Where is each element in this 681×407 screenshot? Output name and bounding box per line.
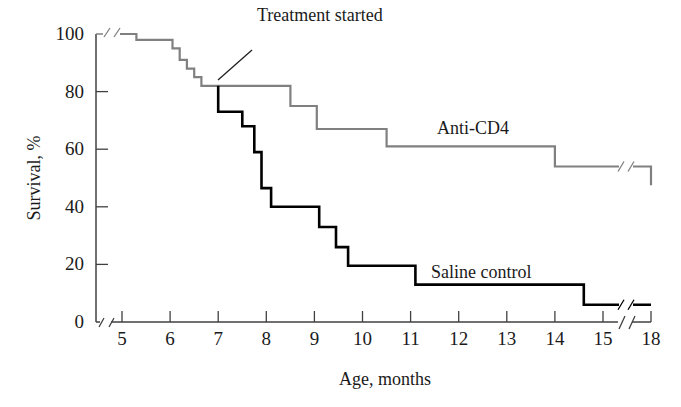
x-tick-label: 8: [262, 328, 272, 349]
x-tick-label: 18: [642, 328, 661, 349]
y-tick-label: 60: [65, 138, 84, 159]
series-label-anti-cd4: Anti-CD4: [437, 118, 509, 138]
y-tick-label: 40: [65, 196, 84, 217]
x-axis-title: Age, months: [339, 369, 431, 389]
y-tick-label: 100: [56, 23, 85, 44]
series-label-saline: Saline control: [431, 262, 531, 282]
axis-break-icon: [619, 316, 625, 329]
y-tick-label: 0: [75, 311, 85, 332]
annotation-treatment-started: Treatment started: [257, 5, 383, 25]
annotation-leader-line: [218, 50, 252, 80]
x-tick-label: 7: [213, 328, 223, 349]
x-tick-label: 15: [594, 328, 613, 349]
axis-break-icon: [114, 28, 120, 37]
axis-break-icon: [104, 28, 110, 37]
x-tick-label: 6: [165, 328, 175, 349]
x-tick-label: 5: [117, 328, 127, 349]
labels: 5678910111213141518020406080100: [56, 23, 661, 349]
y-tick-label: 20: [65, 253, 84, 274]
x-tick-label: 11: [401, 328, 419, 349]
y-tick-label: 80: [65, 81, 84, 102]
x-tick-label: 12: [449, 328, 468, 349]
tick-marks: [96, 92, 651, 322]
x-tick-label: 9: [310, 328, 320, 349]
data-series: [120, 34, 651, 310]
x-tick-label: 13: [497, 328, 516, 349]
survival-chart: 5678910111213141518020406080100 Age, mon…: [0, 0, 681, 407]
x-tick-label: 14: [545, 328, 565, 349]
y-axis-title: Survival, %: [24, 136, 44, 221]
x-tick-label: 10: [353, 328, 372, 349]
series-anti-cd4-line: [120, 34, 651, 185]
